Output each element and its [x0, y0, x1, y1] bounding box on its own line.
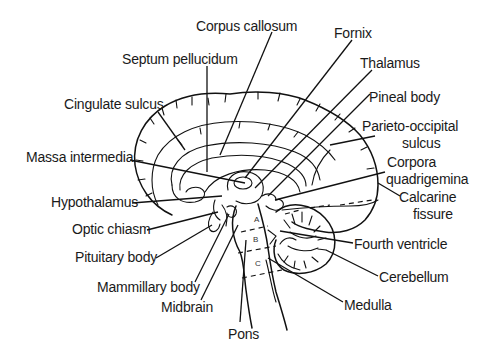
- label-parieto-occipital-line1: Parieto-occipital: [362, 118, 458, 134]
- labels: Corpus callosum Septum pellucidum Fornix…: [26, 18, 469, 342]
- label-septum-pellucidum: Septum pellucidum: [122, 51, 238, 67]
- leader-massa-intermedia: [130, 160, 245, 183]
- label-fornix: Fornix: [334, 25, 372, 41]
- marker-a: A: [254, 215, 260, 224]
- label-optic-chiasm: Optic chiasm: [72, 221, 151, 237]
- leader-mammillary-body: [195, 214, 229, 282]
- marker-b: B: [253, 235, 258, 244]
- label-cingulate-sulcus: Cingulate sulcus: [64, 96, 164, 112]
- leader-hypothalamus: [132, 196, 222, 203]
- corpus-callosum-lower: [180, 155, 306, 190]
- label-thalamus: Thalamus: [360, 55, 420, 71]
- leader-fornix: [245, 40, 352, 178]
- tectum: [262, 194, 283, 210]
- corpus-callosum-upper: [171, 143, 320, 185]
- label-medulla: Medulla: [344, 297, 392, 313]
- leader-corpora-quadrigemina: [275, 172, 385, 200]
- label-pituitary-body: Pituitary body: [75, 249, 157, 265]
- marker-c: C: [255, 259, 261, 268]
- label-midbrain: Midbrain: [161, 299, 213, 315]
- label-corpus-callosum: Corpus callosum: [196, 18, 297, 34]
- cerebrum-outline: [135, 92, 378, 233]
- label-corpora-line1: Corpora: [387, 154, 437, 170]
- calcarine-dash: [285, 200, 372, 214]
- brain-sagittal-diagram: A B C: [0, 0, 485, 355]
- label-mammillary-body: Mammillary body: [97, 279, 200, 295]
- boundary-c: [242, 270, 282, 278]
- leader-cerebellum: [326, 250, 378, 276]
- leader-pineal-body: [268, 94, 370, 196]
- cerebellum-folia: [284, 212, 326, 268]
- boundary-b: [238, 246, 276, 253]
- label-pons: Pons: [228, 326, 259, 342]
- label-massa-intermedia: Massa intermedia: [26, 149, 134, 165]
- leader-parieto-occipital: [330, 136, 375, 145]
- leader-fourth-ventricle: [280, 231, 353, 243]
- label-fourth-ventricle: Fourth ventricle: [354, 236, 448, 252]
- label-parieto-occipital-line2: sulcus: [402, 135, 441, 151]
- label-corpora-line2: quadrigemina: [386, 171, 469, 187]
- brainstem-outline-front: [233, 206, 252, 328]
- leader-cingulate-sulcus: [158, 112, 185, 150]
- label-pineal-body: Pineal body: [369, 89, 440, 105]
- label-cerebellum: Cerebellum: [379, 269, 449, 285]
- leader-pituitary-body: [156, 225, 212, 258]
- label-calcarine-line1: Calcarine: [399, 189, 457, 205]
- label-calcarine-line2: fissure: [413, 206, 453, 222]
- leader-midbrain: [201, 225, 238, 300]
- label-hypothalamus: Hypothalamus: [51, 194, 138, 210]
- pituitary-stalk: [209, 212, 220, 232]
